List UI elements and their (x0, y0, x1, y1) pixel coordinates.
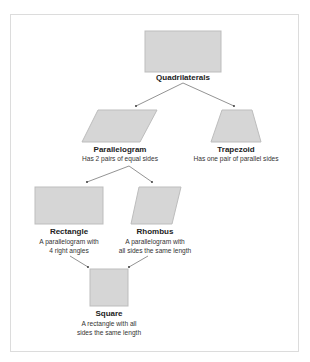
rhombus-desc-line-2: all sides the same length (119, 246, 192, 256)
edge-rectangle-square (70, 256, 88, 267)
quadrilateral-shape (145, 31, 221, 72)
parallelogram-desc: Has 2 pairs of equal sides (82, 154, 158, 164)
edge-parallelogram-rectangle (87, 166, 129, 182)
rectangle-desc-line-2: 4 right angles (49, 246, 89, 256)
quadrilateral-hierarchy-diagram (0, 0, 310, 362)
square-desc-line-2: sides the same length (77, 328, 141, 338)
trapezoid-desc: Has one pair of parallel sides (193, 154, 278, 164)
trapezoid-shape (211, 110, 261, 142)
quadrilaterals-title: Quadrilaterals (156, 73, 210, 83)
edge-rhombus-square (129, 256, 148, 267)
rectangle-title: Rectangle (50, 227, 88, 237)
rhombus-title: Rhombus (137, 227, 174, 237)
edge-quadrilaterals-parallelogram (136, 83, 183, 106)
square-title: Square (95, 309, 122, 319)
parallelogram-shape (82, 110, 157, 142)
rectangle-shape (35, 187, 103, 224)
rhombus-shape (131, 187, 181, 224)
square-shape (90, 269, 128, 306)
edge-parallelogram-rhombus (129, 166, 152, 182)
edge-quadrilaterals-trapezoid (183, 83, 234, 106)
